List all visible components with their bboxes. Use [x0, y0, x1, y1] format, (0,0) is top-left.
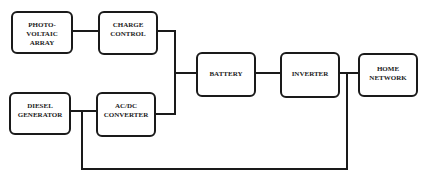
wire-bypass-up-to-home — [346, 72, 348, 170]
wire-diesel-bypass-vertical — [81, 110, 83, 170]
node-label: PHOTO- VOLTAIC ARRAY — [13, 21, 71, 48]
node-diesel-generator: DIESEL GENERATOR — [9, 92, 71, 135]
node-label: INVERTER — [292, 70, 329, 79]
node-battery: BATTERY — [196, 52, 256, 97]
wire-bus-to-battery — [174, 72, 196, 74]
wire-pv-to-charge — [73, 30, 98, 32]
power-system-block-diagram: PHOTO- VOLTAIC ARRAY CHARGE CONTROL DIES… — [0, 0, 426, 176]
wire-acdc-out — [156, 113, 176, 115]
node-inverter: INVERTER — [280, 52, 340, 98]
node-charge-control: CHARGE CONTROL — [98, 11, 158, 55]
node-label: DIESEL GENERATOR — [18, 102, 62, 120]
wire-bypass-bottom — [81, 168, 348, 170]
node-label: AC/DC CONVERTER — [104, 102, 148, 120]
node-acdc-converter: AC/DC CONVERTER — [96, 92, 156, 137]
node-label: BATTERY — [209, 70, 242, 79]
wire-diesel-to-acdc — [71, 110, 96, 112]
wire-inverter-to-home — [340, 72, 358, 74]
node-label: HOME NETWORK — [369, 65, 406, 83]
node-label: CHARGE CONTROL — [110, 21, 145, 39]
node-photovoltaic-array: PHOTO- VOLTAIC ARRAY — [11, 11, 73, 54]
wire-battery-to-inverter — [256, 72, 280, 74]
node-home-network: HOME NETWORK — [358, 53, 418, 97]
